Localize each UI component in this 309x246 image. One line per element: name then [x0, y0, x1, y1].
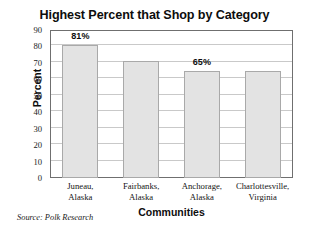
x-tick-label: Fairbanks,Alaska: [123, 181, 159, 202]
y-tick-label: 10: [33, 157, 42, 166]
y-tick-label: 40: [33, 108, 42, 117]
x-axis-tick-labels: Juneau,AlaskaFairbanks,AlaskaAnchorage,A…: [50, 181, 293, 207]
y-axis-tick-labels: 9080706050403020100: [0, 30, 46, 178]
x-tick-label-line: Alaska: [67, 192, 93, 203]
bar-chart-figure: Highest Percent that Shop by Category Pe…: [0, 0, 309, 246]
x-tick-label: Juneau,Alaska: [67, 181, 93, 202]
x-tick-label-line: Alaska: [123, 192, 159, 203]
y-tick-label: 50: [33, 91, 42, 100]
x-tick-label: Charlottesville,Virginia: [236, 181, 289, 202]
chart-title: Highest Percent that Shop by Category: [0, 8, 309, 22]
gridlines: [51, 31, 292, 177]
gridline: [51, 110, 292, 111]
plot-area: [50, 30, 293, 178]
gridline: [51, 94, 292, 95]
x-tick-label-line: Fairbanks,: [123, 181, 159, 192]
x-tick-label-line: Anchorage,: [182, 181, 222, 192]
gridline: [51, 143, 292, 144]
y-tick-label: 20: [33, 141, 42, 150]
source-note: Source: Polk Research: [17, 213, 93, 222]
y-tick-label: 30: [33, 124, 42, 133]
x-tick-label-line: Alaska: [182, 192, 222, 203]
x-tick-label-line: Charlottesville,: [236, 181, 289, 192]
x-tick-label: Anchorage,Alaska: [182, 181, 222, 202]
gridline: [51, 127, 292, 128]
y-tick-label: 90: [33, 26, 42, 35]
gridline: [51, 44, 292, 45]
y-tick-label: 80: [33, 42, 42, 51]
gridline: [51, 160, 292, 161]
x-tick-label-line: Virginia: [236, 192, 289, 203]
gridline: [51, 77, 292, 78]
y-tick-label: 70: [33, 58, 42, 67]
gridline: [51, 61, 292, 62]
y-tick-label: 60: [33, 75, 42, 84]
y-tick-label: 0: [38, 174, 42, 183]
x-tick-label-line: Juneau,: [67, 181, 93, 192]
